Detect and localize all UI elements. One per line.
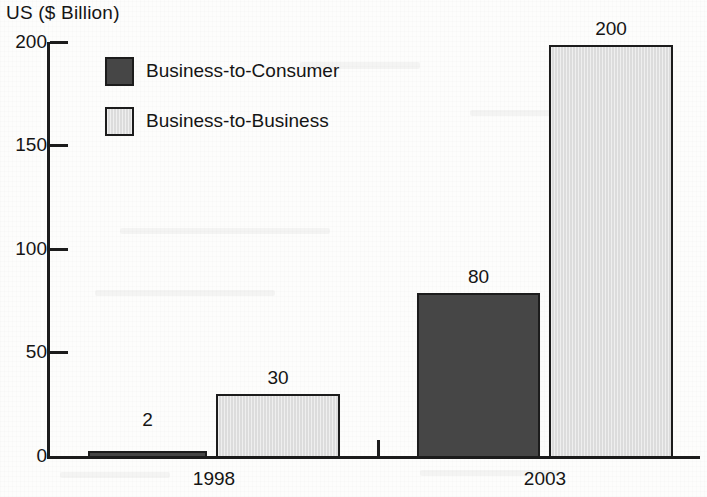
bar-value-label: 200 — [549, 18, 673, 40]
bar-1998-business-to-business[interactable] — [216, 394, 340, 458]
chart-title: US ($ Billion) — [6, 2, 120, 24]
x-axis-label-1998: 1998 — [154, 468, 274, 490]
bar-2003-business-to-business[interactable] — [549, 45, 673, 458]
y-tick-label: 200 — [7, 31, 47, 53]
legend-swatch-icon — [105, 107, 134, 136]
y-tick-label: 50 — [7, 341, 47, 363]
y-tick-label: 150 — [7, 134, 47, 156]
scan-artifact — [120, 228, 330, 234]
x-axis-group-separator-tick — [377, 440, 380, 457]
x-axis-label-2003: 2003 — [485, 468, 605, 490]
bar-value-label: 80 — [417, 266, 540, 288]
bar-2003-business-to-consumer[interactable] — [417, 293, 540, 458]
y-tick-label: 0 — [7, 445, 47, 467]
y-tick-label: 100 — [7, 238, 47, 260]
bar-chart-figure: US ($ Billion) 200 150 100 50 0 Business… — [0, 0, 707, 497]
scan-artifact — [95, 290, 275, 296]
bar-value-label: 2 — [88, 409, 207, 431]
legend-item-label: Business-to-Consumer — [146, 60, 339, 82]
bar-1998-business-to-consumer[interactable] — [88, 451, 207, 458]
legend-swatch-icon — [105, 57, 134, 86]
bar-value-label: 30 — [216, 367, 340, 389]
legend-item-label: Business-to-Business — [146, 110, 329, 132]
